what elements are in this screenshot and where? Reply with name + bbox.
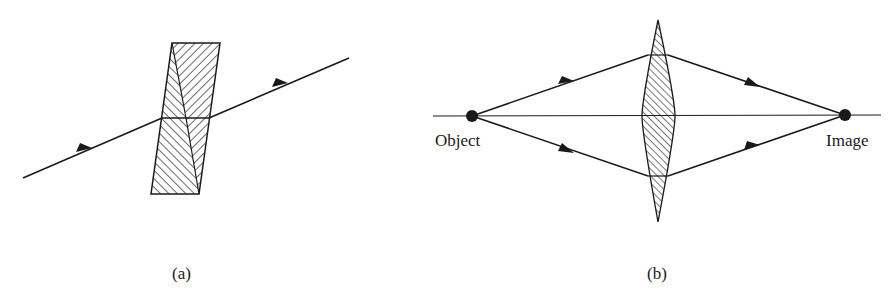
arrow-icon (76, 143, 92, 152)
panel-a: (a) (23, 43, 349, 283)
image-label: Image (826, 131, 868, 150)
optics-figure: (a) Object Image (b) (0, 0, 896, 303)
object-label: Object (435, 131, 481, 150)
arrow-icon (558, 143, 574, 153)
caption-b: (b) (647, 264, 667, 283)
caption-a: (a) (172, 264, 191, 283)
converging-lens (642, 20, 675, 222)
arrow-icon (744, 77, 760, 87)
panel-b: Object Image (b) (433, 20, 881, 283)
object-point (466, 110, 478, 122)
arrow-icon (744, 141, 760, 150)
image-point (839, 109, 851, 121)
